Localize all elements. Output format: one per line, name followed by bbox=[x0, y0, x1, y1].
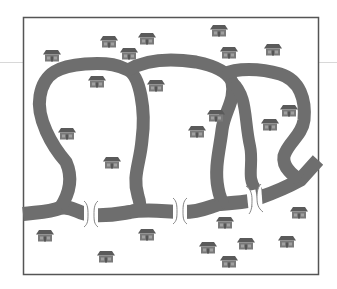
house-icon bbox=[147, 78, 165, 91]
house-icon bbox=[138, 31, 156, 44]
house-icon bbox=[261, 117, 279, 130]
house-icon bbox=[278, 234, 296, 247]
house-icon bbox=[138, 227, 156, 240]
house-icon bbox=[290, 205, 308, 218]
house-icon bbox=[188, 124, 206, 137]
house-icon bbox=[264, 42, 282, 55]
house-icon bbox=[88, 74, 106, 87]
house-icon bbox=[220, 254, 238, 267]
house-icon bbox=[100, 34, 118, 47]
house-icon bbox=[97, 249, 115, 262]
house-icon bbox=[43, 48, 61, 61]
house-icon bbox=[210, 23, 228, 36]
house-icon bbox=[103, 155, 121, 168]
house-icon bbox=[120, 46, 138, 59]
house-icon bbox=[280, 103, 298, 116]
house-icon bbox=[58, 126, 76, 139]
house-icon bbox=[216, 215, 234, 228]
house-icon bbox=[220, 45, 238, 58]
house-icon bbox=[237, 236, 255, 249]
house-icon bbox=[36, 228, 54, 241]
house-icon bbox=[199, 240, 217, 253]
house-icon bbox=[207, 108, 225, 121]
